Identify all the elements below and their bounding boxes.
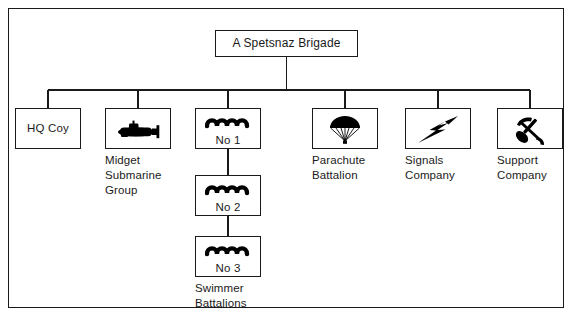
node-swimmer-battalion-no2-label: No 2 — [216, 201, 241, 214]
node-hq-coy-label: HQ Coy — [27, 122, 69, 135]
node-swimmer-battalion-no1[interactable]: No 1 — [195, 108, 261, 149]
root-label: A Spetsnaz Brigade — [232, 37, 340, 51]
node-swimmer-battalion-no1-label: No 1 — [216, 134, 241, 147]
wave-icon — [205, 179, 251, 200]
lightning-bolt-icon — [415, 112, 461, 148]
crossed-pick-and-shovel-icon — [513, 112, 547, 148]
node-swimmer-battalion-no3[interactable]: No 3 — [195, 236, 261, 277]
parachute-icon — [328, 112, 362, 148]
node-midget-submarine-group[interactable] — [105, 108, 171, 149]
node-swimmer-battalion-no2[interactable]: No 2 — [195, 175, 261, 216]
wave-icon — [205, 240, 251, 261]
node-root-brigade[interactable]: A Spetsnaz Brigade — [215, 30, 358, 57]
node-swimmer-battalion-no3-label: No 3 — [216, 262, 241, 275]
node-signals-company[interactable] — [405, 108, 471, 149]
node-midget-submarine-group-caption: Midget Submarine Group — [105, 153, 162, 199]
wave-icon — [205, 112, 251, 133]
node-hq-coy[interactable]: HQ Coy — [15, 108, 81, 149]
node-signals-company-caption: Signals Company — [405, 153, 455, 183]
spetsnaz-brigade-org-chart: A Spetsnaz Brigade HQ Coy — [0, 0, 573, 318]
node-parachute-battalion[interactable] — [312, 108, 378, 149]
node-support-company[interactable] — [497, 108, 563, 149]
submarine-icon — [112, 112, 164, 148]
node-parachute-battalion-caption: Parachute Battalion — [312, 153, 365, 183]
swimmer-battalions-caption: Swimmer Battalions — [195, 281, 247, 311]
node-support-company-caption: Support Company — [497, 153, 547, 183]
